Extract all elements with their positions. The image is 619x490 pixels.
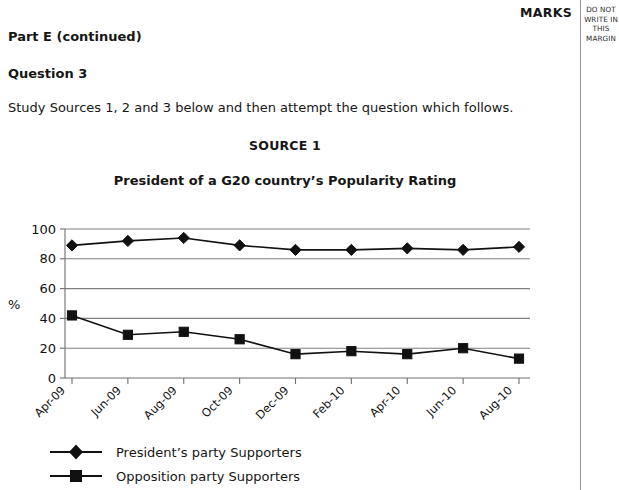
data-point-square bbox=[403, 350, 412, 359]
y-tick-label: 20 bbox=[39, 341, 56, 356]
data-point-diamond bbox=[234, 240, 245, 251]
y-tick-label: 0 bbox=[48, 371, 56, 386]
x-tick-label: Apr-10 bbox=[367, 383, 404, 420]
question-heading: Question 3 bbox=[8, 66, 87, 81]
part-heading: Part E (continued) bbox=[8, 29, 142, 44]
data-point-square bbox=[67, 311, 76, 320]
data-point-diamond bbox=[178, 232, 189, 243]
legend-item-presidents-party: President’s party Supporters bbox=[48, 440, 468, 464]
chart-svg: 020406080100%Apr-09Jun-09Aug-09Oct-09Dec… bbox=[0, 218, 570, 433]
x-tick-label: Aug-10 bbox=[476, 383, 515, 422]
notice-line-3: THIS bbox=[584, 24, 618, 34]
data-point-square bbox=[179, 327, 188, 336]
data-point-diamond bbox=[290, 244, 301, 255]
legend-label-opposition-party: Opposition party Supporters bbox=[116, 469, 300, 484]
y-tick-label: 80 bbox=[39, 251, 56, 266]
data-point-square bbox=[235, 335, 244, 344]
x-tick-label: Feb-10 bbox=[310, 383, 348, 421]
x-tick-label: Dec-09 bbox=[253, 383, 292, 422]
data-point-diamond bbox=[402, 243, 413, 254]
do-not-write-in-this-margin-notice: DO NOT WRITE IN THIS MARGIN bbox=[584, 5, 618, 43]
legend-key-diamond-icon bbox=[48, 443, 104, 461]
chart-title: President of a G20 country’s Popularity … bbox=[0, 173, 570, 188]
x-tick-label: Apr-09 bbox=[31, 383, 68, 420]
data-point-square bbox=[123, 330, 132, 339]
x-tick-label: Jun-09 bbox=[87, 383, 124, 420]
x-tick-label: Aug-09 bbox=[141, 383, 180, 422]
legend-key-square-icon bbox=[48, 467, 104, 485]
notice-line-2: WRITE IN bbox=[584, 15, 618, 25]
x-tick-label: Jun-10 bbox=[423, 383, 460, 420]
data-point-square bbox=[514, 354, 523, 363]
marks-label: MARKS bbox=[508, 5, 572, 20]
notice-line-4: MARGIN bbox=[584, 34, 618, 44]
y-tick-label: 100 bbox=[31, 222, 56, 237]
data-point-diamond bbox=[122, 235, 133, 246]
data-point-square bbox=[291, 350, 300, 359]
notice-line-1: DO NOT bbox=[584, 5, 618, 15]
chart-legend: President’s party Supporters Opposition … bbox=[48, 440, 468, 488]
data-point-square bbox=[459, 344, 468, 353]
y-tick-label: 60 bbox=[39, 281, 56, 296]
data-point-square bbox=[347, 347, 356, 356]
legend-item-opposition-party: Opposition party Supporters bbox=[48, 464, 468, 488]
y-axis-unit-label: % bbox=[8, 297, 20, 312]
data-point-diamond bbox=[66, 240, 77, 251]
data-point-diamond bbox=[458, 244, 469, 255]
data-point-diamond bbox=[513, 241, 524, 252]
popularity-rating-line-chart: 020406080100%Apr-09Jun-09Aug-09Oct-09Dec… bbox=[0, 218, 570, 433]
legend-label-presidents-party: President’s party Supporters bbox=[116, 445, 302, 460]
y-tick-label: 40 bbox=[39, 311, 56, 326]
instruction-text: Study Sources 1, 2 and 3 below and then … bbox=[8, 100, 513, 115]
x-tick-label: Oct-09 bbox=[199, 383, 236, 420]
margin-divider-line bbox=[580, 0, 581, 490]
data-point-diamond bbox=[346, 244, 357, 255]
source-label: SOURCE 1 bbox=[0, 138, 570, 153]
